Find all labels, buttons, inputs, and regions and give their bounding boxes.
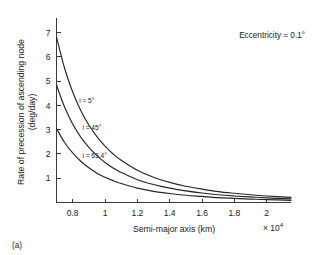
x-axis-multiplier: × 104 (263, 222, 284, 233)
panel-label: (a) (12, 241, 22, 250)
figure-panel-a: Rate of precession of ascending node (de… (0, 0, 324, 255)
x-tick-label: 1.4 (164, 208, 176, 218)
x-tick-label: 1.2 (131, 208, 143, 218)
curve-label-1: i = 5° (79, 97, 95, 104)
x-tick-label: 1.6 (196, 208, 208, 218)
curve-label-2: i = 45° (82, 124, 101, 131)
x-tick-label: 1.8 (228, 208, 240, 218)
curve-group (57, 37, 292, 200)
curve-label-3: i = 63.4° (82, 152, 107, 159)
y-tick-label: 3 (46, 125, 51, 135)
y-axis-title-line2: (deg/day) (27, 94, 37, 131)
y-tick-label: 1 (46, 173, 51, 183)
y-tick-label: 5 (46, 76, 51, 86)
curve-3 (57, 128, 292, 200)
x-tick-label: 0.8 (67, 208, 79, 218)
y-tick-label: 2 (46, 149, 51, 159)
x-axis-title: Semi-major axis (km) (133, 224, 215, 234)
eccentricity-annotation: Eccentricity = 0.1° (239, 31, 305, 40)
x-tick-label: 2 (264, 208, 269, 218)
x-tick-group: 0.811.21.41.61.82 (67, 199, 270, 218)
y-tick-label: 6 (46, 52, 51, 62)
y-axis-title-line1: Rate of precession of ascending node (16, 39, 26, 185)
y-tick-label: 4 (46, 101, 51, 111)
chart-svg: Rate of precession of ascending node (de… (0, 0, 324, 255)
x-tick-label: 1 (103, 208, 108, 218)
curve-1 (57, 37, 292, 197)
y-tick-group: 1234567 (46, 28, 61, 184)
y-tick-label: 7 (46, 28, 51, 38)
curve-label-group: i = 5°i = 45°i = 63.4° (79, 97, 107, 159)
